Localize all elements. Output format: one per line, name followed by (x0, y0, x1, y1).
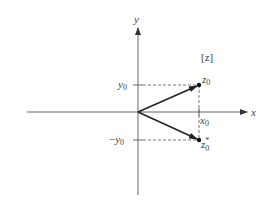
neg-y0-label-sub: 0 (120, 138, 124, 147)
z0-vector (138, 86, 197, 112)
complex-plane-diagram: y x [z] z0 z*0 y0 −y0 x0 (0, 0, 272, 204)
y0-label-sub: 0 (123, 83, 127, 92)
z0-point (197, 83, 201, 87)
plane-label: [z] (201, 51, 213, 63)
y0-label: y0 (117, 78, 127, 92)
z0-label-sub: 0 (206, 78, 210, 87)
neg-y0-label: −y0 (109, 133, 124, 147)
x0-label: x0 (199, 114, 209, 128)
z0-conjugate-label: z*0 (200, 136, 209, 153)
x0-label-sub: 0 (205, 119, 209, 128)
z0-conjugate-vector (138, 112, 197, 139)
y-axis-label: y (133, 13, 139, 25)
z0-conjugate-label-sub: 0 (205, 144, 209, 153)
x-axis-label: x (250, 106, 256, 118)
z0-label: z0 (201, 73, 210, 87)
